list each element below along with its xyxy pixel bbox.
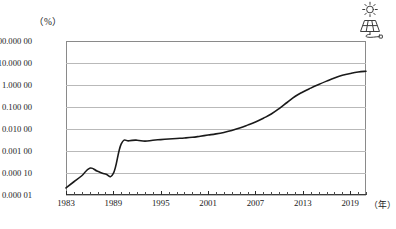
y-tick-label: 100.000 00 xyxy=(0,37,32,46)
y-tick-label: 0.000 01 xyxy=(0,191,32,200)
x-minor-tick xyxy=(366,192,367,195)
plot-area: 100.000 0010.000 001.000 000.100 000.010… xyxy=(66,41,366,195)
x-tick-label: 1995 xyxy=(141,198,181,208)
y-tick-label: 0.000 10 xyxy=(0,169,32,178)
x-tick-label: 1989 xyxy=(93,198,133,208)
x-tick-label: 2007 xyxy=(235,198,275,208)
y-tick-label: 0.001 00 xyxy=(0,147,32,156)
y-axis-unit-label: （%） xyxy=(20,14,76,28)
y-tick-label: 10.000 00 xyxy=(0,59,32,68)
gridline xyxy=(66,195,366,196)
y-tick-label: 0.100 00 xyxy=(0,103,32,112)
x-tick-label: 2001 xyxy=(188,198,228,208)
x-tick-label: 2013 xyxy=(283,198,323,208)
y-tick-label: 0.010 00 xyxy=(0,125,32,134)
data-series-layer xyxy=(66,41,366,195)
y-tick-label: 1.000 00 xyxy=(0,81,32,90)
series-line-solar-share xyxy=(66,71,366,188)
x-axis-unit-label: （年） xyxy=(369,198,396,211)
chart-figure: （%） xyxy=(0,0,396,229)
x-tick-label: 2019 xyxy=(330,198,370,208)
solar-panel-icon xyxy=(348,1,392,41)
x-tick-label: 1983 xyxy=(46,198,86,208)
